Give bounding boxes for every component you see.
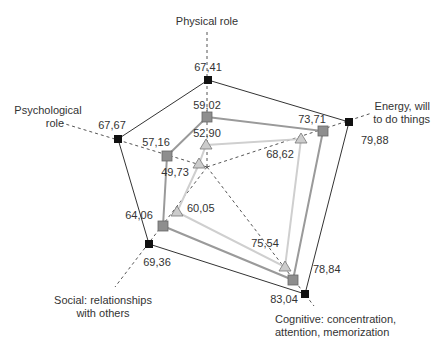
radar-chart: 67,41 79,88 83,04 69,36 67,67 59,02 73,7… <box>0 0 445 350</box>
value-label-triangle-energy: 68,62 <box>266 148 294 160</box>
marker-black-physical <box>204 76 212 84</box>
value-label-black-energy: 79,88 <box>361 134 389 146</box>
value-label-gray-cognitive: 78,84 <box>313 263 341 275</box>
value-label-triangle-psychological: 49,73 <box>161 166 189 178</box>
value-label-gray-physical: 59,02 <box>193 99 221 111</box>
marker-gray-social <box>158 221 168 231</box>
axis-label-cognitive-line2: attention, memorization <box>275 326 389 338</box>
axis-label-physical: Physical role <box>176 15 238 27</box>
axis-label-psychological-line2: role <box>46 117 64 129</box>
value-label-triangle-social: 60,05 <box>187 202 215 214</box>
axis-label-psychological-line1: Psychological <box>14 104 81 116</box>
axis-label-energy-line2: to do things <box>373 113 430 125</box>
axis-label-energy-line1: Energy, will <box>375 100 430 112</box>
marker-black-cognitive <box>301 290 309 298</box>
axis-label-cognitive-line1: Cognitive: concentration, <box>275 313 396 325</box>
value-label-triangle-cognitive: 75,54 <box>251 237 279 249</box>
value-label-black-psychological: 67,67 <box>98 119 126 131</box>
marker-gray-physical <box>202 112 212 122</box>
marker-black-energy <box>345 118 353 126</box>
value-label-black-cognitive: 83,04 <box>270 293 298 305</box>
value-label-black-physical: 67,41 <box>194 61 222 73</box>
value-label-gray-psychological: 57,16 <box>142 136 170 148</box>
value-label-gray-energy: 73,71 <box>298 113 326 125</box>
marker-black-social <box>145 240 153 248</box>
value-label-black-social: 69,36 <box>143 256 171 268</box>
axis-label-social-line2: with others <box>75 307 130 319</box>
value-label-triangle-physical: 52,90 <box>193 127 221 139</box>
marker-gray-energy <box>318 126 328 136</box>
marker-gray-cognitive <box>288 275 298 285</box>
marker-gray-psychological <box>162 151 172 161</box>
radar-chart-svg: 67,41 79,88 83,04 69,36 67,67 59,02 73,7… <box>0 0 445 350</box>
axis-psychological <box>62 123 207 167</box>
axis-label-social-line1: Social: relationships <box>54 294 152 306</box>
marker-black-psychological <box>114 135 122 143</box>
value-label-gray-social: 64,06 <box>125 209 153 221</box>
